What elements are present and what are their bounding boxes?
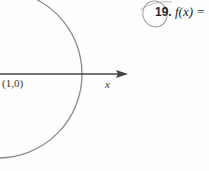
problem-expression: f(x) = — [175, 4, 205, 19]
point-label: (1,0) — [2, 77, 23, 89]
problem-number: 19. — [155, 5, 172, 19]
axis-label-x: x — [105, 78, 110, 90]
problem-header: 19. f(x) = — [155, 4, 205, 20]
